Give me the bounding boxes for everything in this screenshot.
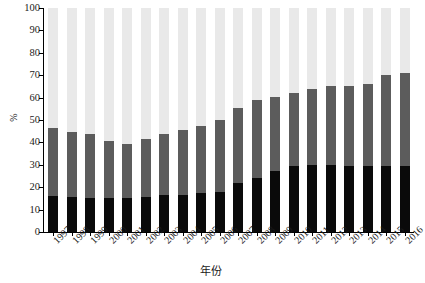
x-tick-label: 1999 (88, 224, 110, 246)
x-tick-label: 2004 (181, 224, 203, 246)
x-tick-label: 2014 (366, 224, 388, 246)
x-tick-label: 2011 (310, 224, 332, 246)
x-tick-label: 2001 (125, 224, 147, 246)
x-tick-label: 2005 (199, 224, 221, 246)
x-tick-label: 1997 (51, 224, 73, 246)
x-tick-label: 2003 (162, 224, 184, 246)
x-tick-label: 1998 (70, 224, 92, 246)
x-tick-label: 2007 (236, 224, 258, 246)
x-tick-label: 2013 (347, 224, 369, 246)
x-tick-label: 2016 (403, 224, 425, 246)
x-tick-label: 2006 (218, 224, 240, 246)
x-axis-title: 年份 (0, 262, 422, 278)
x-tick-label: 2012 (329, 224, 351, 246)
x-tick-label: 2015 (384, 224, 406, 246)
x-tick-label: 2002 (144, 224, 166, 246)
x-tick-label: 2010 (292, 224, 314, 246)
x-tick-label: 2000 (107, 224, 129, 246)
x-tick-label: 2009 (273, 224, 295, 246)
x-tick-label: 2008 (255, 224, 277, 246)
